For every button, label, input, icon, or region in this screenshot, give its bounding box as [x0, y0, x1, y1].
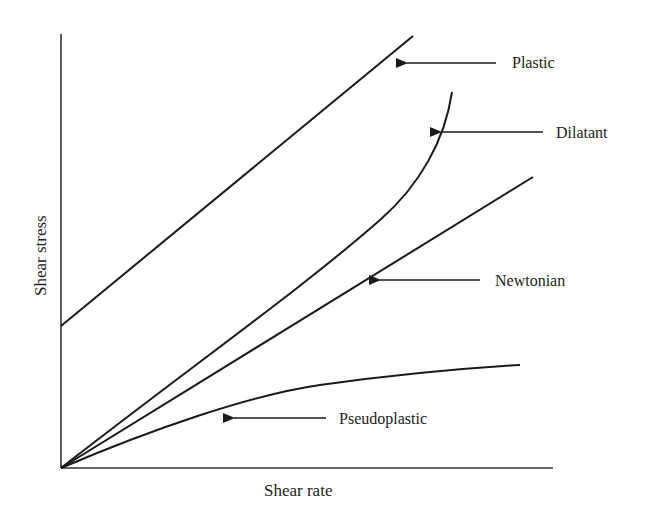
- dilatant-label: Dilatant: [556, 124, 608, 141]
- pseudoplastic-label: Pseudoplastic: [339, 410, 427, 428]
- rheology-diagram: Plastic Dilatant Newtonian Pseudoplastic…: [0, 0, 661, 521]
- newtonian-label: Newtonian: [495, 272, 565, 289]
- y-axis-label: Shear stress: [31, 215, 50, 296]
- newtonian-curve: [61, 177, 533, 468]
- plastic-label: Plastic: [512, 54, 555, 71]
- x-axis-label: Shear rate: [264, 481, 332, 500]
- pseudoplastic-curve: [61, 365, 520, 468]
